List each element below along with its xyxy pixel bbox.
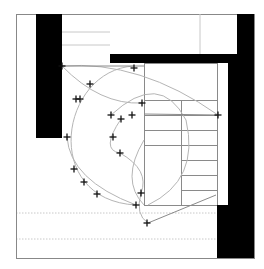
right-lower-wall <box>217 205 254 258</box>
floor-plan-svg <box>0 0 264 269</box>
top-bar-wall <box>110 54 238 63</box>
right-middle-wall <box>228 54 254 205</box>
left-wall <box>36 14 62 138</box>
floor-plan-diagram <box>0 0 264 269</box>
